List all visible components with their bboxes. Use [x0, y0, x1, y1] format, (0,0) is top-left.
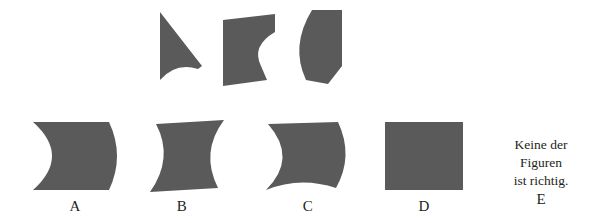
option-c-shape-icon [250, 120, 356, 194]
option-e-line-2: Figuren [489, 154, 593, 172]
option-d-label: D [404, 199, 444, 214]
option-a-label: A [55, 199, 95, 214]
stimulus-piece-2 [221, 12, 279, 90]
stimulus-piece-3 [292, 8, 346, 88]
option-e-label: E [489, 192, 593, 207]
option-e-text: Keine der Figuren ist richtig. [489, 136, 593, 189]
concave-right-block-piece-icon [221, 12, 279, 90]
shape-assembly-puzzle: A B C D Keine der Figuren ist richtig. E [0, 0, 598, 223]
option-a-shape-icon [29, 120, 127, 192]
option-b-label: B [162, 199, 202, 214]
option-e-line-3: ist richtig. [489, 172, 593, 190]
option-e-line-1: Keine der [489, 136, 593, 154]
option-b[interactable] [134, 118, 232, 196]
option-c[interactable] [250, 120, 356, 194]
stimulus-piece-1 [158, 10, 206, 84]
convex-left-bulge-piece-icon [292, 8, 346, 88]
option-b-shape-icon [134, 118, 232, 196]
option-a[interactable] [29, 120, 127, 192]
option-e[interactable]: Keine der Figuren ist richtig. E [489, 136, 593, 207]
option-d-shape-icon [383, 120, 465, 192]
option-c-label: C [288, 199, 328, 214]
narrow-wedge-piece-icon [158, 10, 206, 84]
option-d[interactable] [383, 120, 465, 192]
